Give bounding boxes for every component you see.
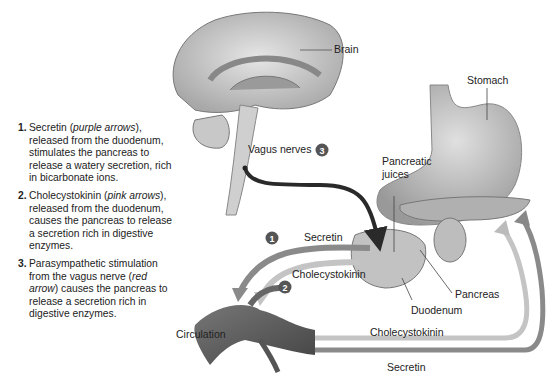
label-pancreatic-juices-1: Pancreatic (382, 155, 432, 167)
label-circulation: Circulation (176, 328, 226, 340)
stomach-illustration (351, 85, 530, 288)
marker-3: 3 (316, 144, 329, 157)
svg-text:2: 2 (282, 283, 287, 293)
legend-item-parasympathetic: 3. Parasympathetic stimulation from the … (18, 258, 178, 321)
label-secretin-lower: Secretin (387, 361, 426, 373)
label-duodenum: Duodenum (411, 304, 462, 316)
label-brain: Brain (334, 43, 359, 55)
label-secretin-upper: Secretin (304, 231, 343, 243)
marker-2: 2 (279, 281, 292, 294)
svg-text:1: 1 (269, 234, 274, 244)
label-cholecystokinin-lower: Cholecystokinin (370, 326, 444, 338)
label-stomach: Stomach (467, 74, 508, 86)
label-pancreatic-juices-2: juices (382, 168, 409, 180)
label-pancreas: Pancreas (455, 288, 499, 300)
legend-item-cholecystokinin: 2. Cholecystokinin (pink arrows), releas… (18, 190, 178, 253)
legend: 1. Secretin (purple arrows), released fr… (18, 122, 178, 326)
svg-text:3: 3 (319, 146, 324, 156)
label-vagus-nerves: Vagus nerves (248, 143, 311, 155)
vagus-nerve-arrow (245, 168, 378, 240)
legend-item-secretin: 1. Secretin (purple arrows), released fr… (18, 122, 178, 185)
label-cholecystokinin-upper: Cholecystokinin (292, 268, 366, 280)
marker-1: 1 (266, 232, 279, 245)
